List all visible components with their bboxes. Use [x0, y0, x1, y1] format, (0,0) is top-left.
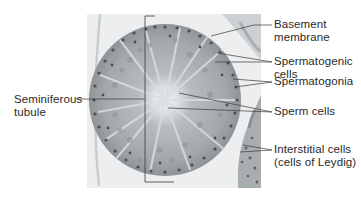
micrograph-field: [87, 14, 261, 188]
label-line: tubule: [14, 106, 82, 119]
label-basement-membrane: Basement membrane: [274, 18, 330, 44]
label-line: Basement: [274, 18, 330, 31]
label-interstitial-cells: Interstitial cells (cells of Leydig): [274, 143, 356, 169]
label-line: Interstitial cells: [274, 143, 356, 156]
label-line: Spermatogenic: [274, 55, 353, 68]
label-line: Sperm cells: [274, 105, 335, 118]
labeled-micrograph-figure: Basement membrane Spermatogenic cells Sp…: [0, 0, 361, 198]
label-line: (cells of Leydig): [274, 156, 356, 169]
label-sperm-cells: Sperm cells: [274, 105, 335, 118]
label-spermatogonia: Spermatogonia: [274, 75, 353, 88]
label-line: Seminiferous: [14, 93, 82, 106]
label-seminiferous-tubule: Seminiferous tubule: [14, 93, 82, 119]
label-line: membrane: [274, 31, 330, 44]
label-line: Spermatogonia: [274, 75, 353, 88]
